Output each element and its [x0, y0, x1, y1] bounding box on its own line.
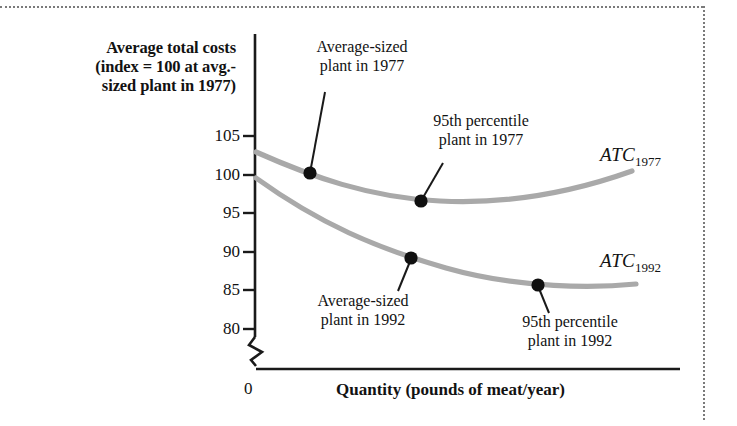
axis-break-mark [249, 337, 262, 366]
y-tick-label-85: 85 [188, 280, 240, 300]
annotation-avg-plant-1977: Average-sized plant in 1977 [272, 38, 452, 75]
y-tick-marks [243, 136, 255, 329]
y-axis-title: Average total costs (index = 100 at avg.… [22, 38, 236, 95]
atc-1992-subscript: 1992 [635, 260, 661, 275]
origin-label: 0 [244, 379, 253, 399]
point-avg-plant-1992 [404, 251, 417, 264]
annotation-p95-plant-1977: 95th percentile plant in 1977 [386, 112, 576, 149]
y-tick-label-105: 105 [188, 126, 240, 146]
point-avg-plant-1977 [303, 166, 316, 179]
y-tick-label-100: 100 [188, 165, 240, 185]
atc-1977-subscript: 1977 [635, 154, 661, 169]
leader-avg-1977 [310, 92, 325, 173]
x-axis-title: Quantity (pounds of meat/year) [336, 380, 565, 400]
y-tick-label-95: 95 [188, 203, 240, 223]
point-p95-plant-1992 [531, 278, 544, 291]
atc-1992-curve [256, 178, 636, 286]
annotation-avg-plant-1992: Average-sized plant in 1992 [268, 292, 458, 329]
atc-1977-name: ATC [600, 144, 635, 165]
y-tick-label-80: 80 [188, 319, 240, 339]
point-p95-plant-1977 [414, 194, 427, 207]
curve-label-atc-1977: ATC1977 [600, 144, 661, 170]
y-tick-label-90: 90 [188, 242, 240, 262]
cost-curve-figure: Average total costs (index = 100 at avg.… [0, 0, 737, 426]
atc-1992-name: ATC [600, 250, 635, 271]
curve-label-atc-1992: ATC1992 [600, 250, 661, 276]
annotation-p95-plant-1992: 95th percentile plant in 1992 [474, 313, 666, 350]
